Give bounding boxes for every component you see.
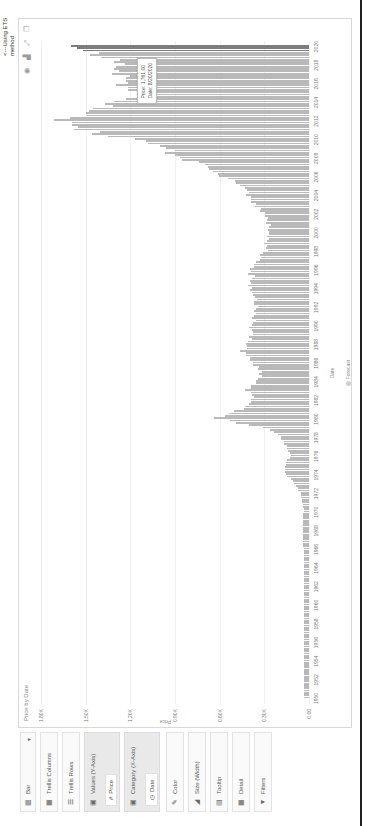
- bar[interactable]: [251, 271, 309, 273]
- bar[interactable]: [304, 673, 309, 675]
- bar[interactable]: [247, 189, 309, 191]
- bar[interactable]: [87, 115, 309, 117]
- bar[interactable]: [304, 552, 309, 554]
- bar[interactable]: [252, 329, 309, 331]
- bar[interactable]: [286, 462, 309, 464]
- bar[interactable]: [259, 373, 309, 375]
- bar[interactable]: [271, 224, 309, 226]
- category-x-axis-shelf[interactable]: ▣ Category (X-Axis) ◷ Date: [124, 732, 160, 812]
- bar[interactable]: [304, 680, 309, 682]
- bar[interactable]: [304, 608, 309, 610]
- bar[interactable]: [182, 159, 309, 161]
- bar[interactable]: [286, 464, 309, 466]
- bar[interactable]: [262, 371, 309, 373]
- trellis-columns-shelf[interactable]: ▦ Trellis Columns: [40, 732, 58, 812]
- bar[interactable]: [235, 180, 309, 182]
- bar[interactable]: [303, 522, 309, 524]
- bar[interactable]: [262, 375, 309, 377]
- bar[interactable]: [304, 592, 309, 594]
- bar[interactable]: [304, 620, 310, 622]
- bar[interactable]: [253, 334, 309, 336]
- bar[interactable]: [256, 308, 309, 310]
- bar[interactable]: [252, 278, 309, 280]
- bar[interactable]: [296, 485, 309, 487]
- bar[interactable]: [304, 639, 309, 641]
- bar[interactable]: [303, 527, 309, 529]
- bar[interactable]: [269, 233, 309, 235]
- bar[interactable]: [304, 641, 309, 643]
- bar[interactable]: [304, 690, 309, 692]
- bar[interactable]: [260, 254, 309, 256]
- bar[interactable]: [108, 136, 309, 138]
- bar[interactable]: [258, 378, 310, 380]
- bar[interactable]: [303, 524, 309, 526]
- bar[interactable]: [252, 324, 309, 326]
- bar[interactable]: [304, 511, 309, 513]
- bar[interactable]: [265, 215, 309, 217]
- bar[interactable]: [254, 266, 309, 268]
- bar[interactable]: [253, 362, 309, 364]
- bar[interactable]: [253, 331, 309, 333]
- bar[interactable]: [247, 348, 310, 350]
- info-icon[interactable]: ◉: [23, 67, 31, 75]
- bar[interactable]: [281, 438, 309, 440]
- bar[interactable]: [287, 448, 309, 450]
- bar[interactable]: [78, 126, 309, 128]
- bar[interactable]: [304, 548, 309, 550]
- bar[interactable]: [256, 261, 309, 263]
- bar[interactable]: [251, 387, 309, 389]
- bar[interactable]: [288, 450, 309, 452]
- bar[interactable]: [304, 622, 309, 624]
- bar[interactable]: [251, 196, 309, 198]
- bar[interactable]: [260, 259, 309, 261]
- bar[interactable]: [92, 133, 309, 135]
- bar[interactable]: [278, 434, 309, 436]
- bar[interactable]: [303, 534, 309, 536]
- bar[interactable]: [304, 585, 309, 587]
- bar[interactable]: [304, 615, 309, 617]
- bar[interactable]: [251, 392, 309, 394]
- bar[interactable]: [286, 473, 309, 475]
- bar[interactable]: [249, 192, 309, 194]
- bar[interactable]: [304, 664, 309, 666]
- bar[interactable]: [285, 466, 309, 468]
- bar[interactable]: [267, 245, 309, 247]
- bar[interactable]: [304, 606, 309, 608]
- values-y-axis-shelf[interactable]: ▣ Values (Y-Axis) # Price: [84, 732, 120, 812]
- bar[interactable]: [304, 685, 309, 687]
- bar[interactable]: [256, 320, 309, 322]
- bar[interactable]: [304, 662, 309, 664]
- bar[interactable]: [304, 667, 309, 669]
- bar[interactable]: [250, 280, 309, 282]
- bar[interactable]: [209, 168, 309, 170]
- detail-shelf[interactable]: ▦ Detail: [232, 732, 250, 812]
- bar[interactable]: [248, 285, 309, 287]
- bar[interactable]: [260, 210, 309, 212]
- bar[interactable]: [219, 175, 309, 177]
- bar[interactable]: [268, 229, 309, 231]
- bar[interactable]: [301, 494, 309, 496]
- bar[interactable]: [244, 408, 309, 410]
- bar[interactable]: [267, 236, 309, 238]
- bar[interactable]: [304, 508, 309, 510]
- bar[interactable]: [225, 415, 309, 417]
- bar[interactable]: [254, 301, 309, 303]
- bar[interactable]: [101, 57, 309, 59]
- bar[interactable]: [166, 147, 309, 149]
- bar[interactable]: [304, 557, 309, 559]
- bar[interactable]: [254, 264, 309, 266]
- bar[interactable]: [269, 238, 309, 240]
- bar[interactable]: [253, 322, 309, 324]
- bar[interactable]: [251, 385, 309, 387]
- bar-series[interactable]: [41, 41, 309, 705]
- color-shelf[interactable]: ✎ Color: [166, 732, 184, 812]
- bar[interactable]: [303, 545, 309, 547]
- bar[interactable]: [287, 445, 309, 447]
- bar[interactable]: [304, 632, 309, 634]
- bar[interactable]: [251, 201, 309, 203]
- bar[interactable]: [254, 396, 309, 398]
- bar[interactable]: [213, 171, 309, 173]
- bar[interactable]: [254, 315, 309, 317]
- bar[interactable]: [252, 394, 309, 396]
- bar[interactable]: [301, 497, 309, 499]
